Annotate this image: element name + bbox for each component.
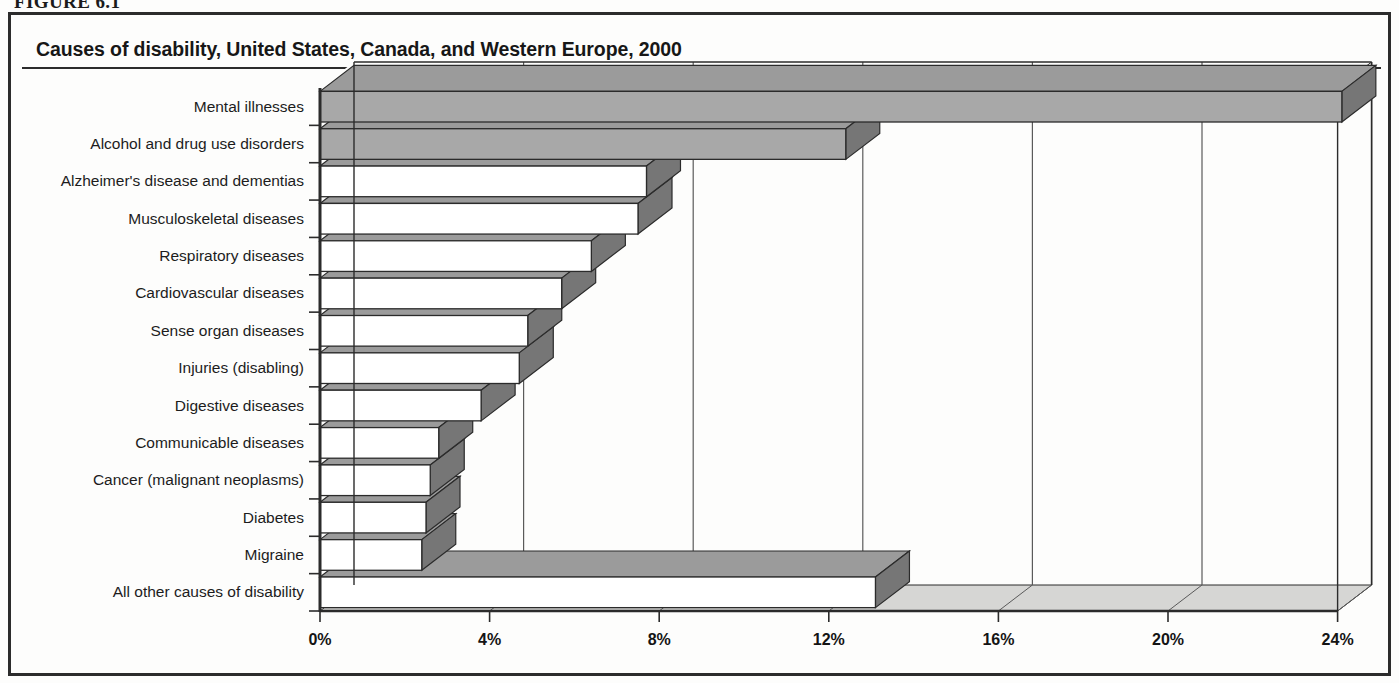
x-tick-label-20: 20%	[1138, 631, 1198, 649]
bar-front-face	[320, 278, 562, 309]
bar-1	[320, 65, 1376, 122]
x-tick-label-8: 8%	[629, 631, 689, 649]
bar-front-face	[320, 316, 528, 347]
bar-front-face	[320, 465, 430, 496]
category-label-4: Musculoskeletal diseases	[128, 211, 304, 227]
category-label-13: Migraine	[245, 547, 304, 563]
category-label-10: Communicable diseases	[135, 435, 304, 451]
bar-front-face	[320, 203, 638, 234]
bar-front-face	[320, 502, 426, 533]
category-label-5: Respiratory diseases	[159, 248, 304, 264]
figure-page: FIGURE 6.1 Causes of disability, United …	[0, 0, 1399, 683]
category-label-8: Injuries (disabling)	[178, 360, 304, 376]
category-label-12: Diabetes	[243, 510, 304, 526]
x-tick-label-12: 12%	[799, 631, 859, 649]
category-label-1: Mental illnesses	[194, 99, 304, 115]
category-label-11: Cancer (malignant neoplasms)	[93, 472, 304, 488]
x-tick-label-4: 4%	[460, 631, 520, 649]
category-label-6: Cardiovascular diseases	[135, 285, 304, 301]
bar-front-face	[320, 91, 1342, 122]
bar-front-face	[320, 428, 439, 459]
bar-front-face	[320, 577, 875, 608]
category-label-2: Alcohol and drug use disorders	[90, 136, 304, 152]
x-tick-label-24: 24%	[1308, 631, 1368, 649]
category-label-7: Sense organ diseases	[151, 323, 304, 339]
bar-front-face	[320, 540, 422, 571]
x-tick-label-16: 16%	[968, 631, 1028, 649]
category-label-3: Alzheimer's disease and dementias	[61, 173, 304, 189]
bar-front-face	[320, 166, 646, 197]
bar-top-face	[320, 65, 1376, 91]
bar-front-face	[320, 129, 846, 160]
category-label-9: Digestive diseases	[175, 398, 304, 414]
bar-front-face	[320, 353, 519, 384]
category-label-14: All other causes of disability	[113, 584, 304, 600]
bar-front-face	[320, 241, 591, 272]
x-tick-label-0: 0%	[290, 631, 350, 649]
bar-front-face	[320, 390, 481, 421]
